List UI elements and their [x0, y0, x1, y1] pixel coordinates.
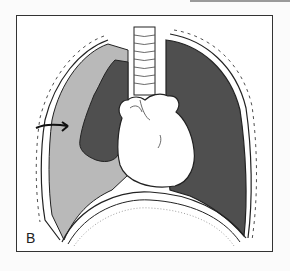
chest-diagram: [0, 0, 290, 271]
trachea: [134, 27, 155, 95]
panel-label: B: [26, 230, 35, 246]
